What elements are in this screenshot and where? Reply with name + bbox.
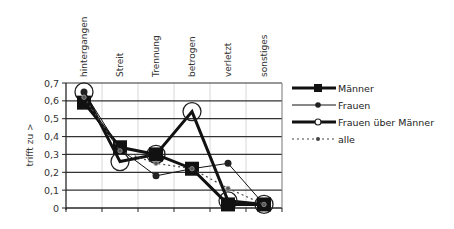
category-label: betrogen (187, 36, 197, 77)
y-tick-label: 0,3 (44, 149, 59, 160)
dot-marker (81, 88, 88, 95)
legend-item: Frauen über Männer (292, 117, 434, 128)
dot-marker (153, 172, 160, 179)
legend-label: Frauen über Männer (338, 117, 434, 128)
gridlines (66, 83, 282, 212)
category-label: hintergangen (79, 17, 89, 77)
category-label: sonstiges (259, 34, 269, 77)
y-axis-label: trifft zu > (25, 123, 35, 166)
diamond-marker (226, 186, 230, 190)
category-label: verletzt (223, 42, 233, 77)
legend-label: alle (338, 134, 355, 145)
diamond-marker (190, 167, 194, 171)
legend-item: Frauen (292, 100, 370, 111)
category-label: Trennung (151, 35, 161, 78)
legend-item: Männer (292, 83, 374, 94)
category-label: Streit (115, 52, 125, 77)
y-tick-label: 0,7 (44, 78, 59, 89)
legend-square-marker (314, 84, 322, 92)
square-marker (149, 147, 163, 161)
diamond-marker (82, 95, 86, 99)
diamond-marker (262, 202, 266, 206)
y-tick-label: 0,2 (44, 167, 59, 178)
legend-circle-marker (315, 119, 321, 125)
y-tick-label: 0,5 (44, 113, 59, 124)
legend-label: Männer (338, 83, 374, 94)
diamond-marker (118, 149, 122, 153)
legend-dot-marker (315, 102, 321, 108)
y-tick-label: 0,4 (44, 131, 59, 142)
diamond-marker (154, 161, 158, 165)
legend-label: Frauen (338, 100, 370, 111)
y-axis-ticks: 00,10,20,30,40,50,60,7 (44, 78, 66, 214)
y-tick-label: 0,6 (44, 95, 59, 106)
dot-marker (225, 160, 232, 167)
y-tick-label: 0,1 (44, 185, 59, 196)
x-axis-categories: hintergangenStreitTrennungbetrogenverlet… (79, 17, 269, 78)
legend-diamond-marker (316, 137, 320, 141)
legend: MännerFrauenFrauen über Männeralle (292, 83, 434, 145)
line-chart: 00,10,20,30,40,50,60,7 trifft zu > hinte… (0, 0, 454, 229)
square-marker (221, 197, 235, 211)
y-tick-label: 0 (53, 203, 59, 214)
legend-item: alle (292, 134, 355, 145)
